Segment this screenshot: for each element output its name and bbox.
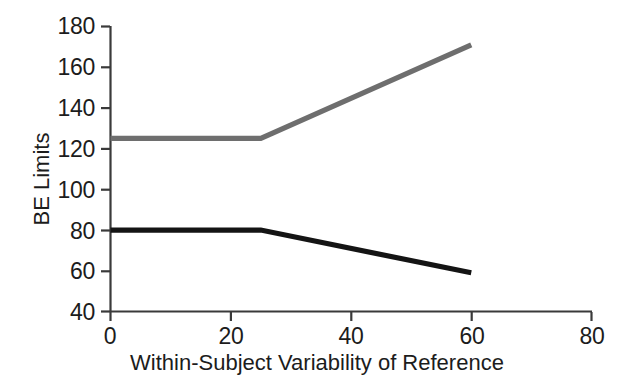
y-tick-marks: [101, 27, 110, 312]
plot-area: [0, 0, 634, 388]
x-axis-title: Within-Subject Variability of Reference: [0, 352, 634, 374]
x-tick-label-80: 80: [580, 325, 605, 348]
y-tick-label-60: 60: [0, 260, 95, 283]
y-tick-label-40: 40: [0, 301, 95, 324]
data-series-layer: [111, 45, 472, 273]
y-tick-label-160: 160: [0, 56, 95, 79]
y-tick-label-180: 180: [0, 15, 95, 38]
x-tick-marks: [111, 312, 592, 321]
x-tick-label-40: 40: [339, 325, 364, 348]
x-tick-label-60: 60: [460, 325, 485, 348]
chart-container: 180 160 140 120 100 80 60 40 0 20 40 60 …: [0, 0, 634, 388]
series-line-lower: [111, 230, 472, 273]
x-tick-label-20: 20: [219, 325, 244, 348]
series-line-upper: [111, 45, 472, 139]
x-tick-label-0: 0: [104, 325, 117, 348]
y-axis-title: BE Limits: [31, 104, 53, 254]
